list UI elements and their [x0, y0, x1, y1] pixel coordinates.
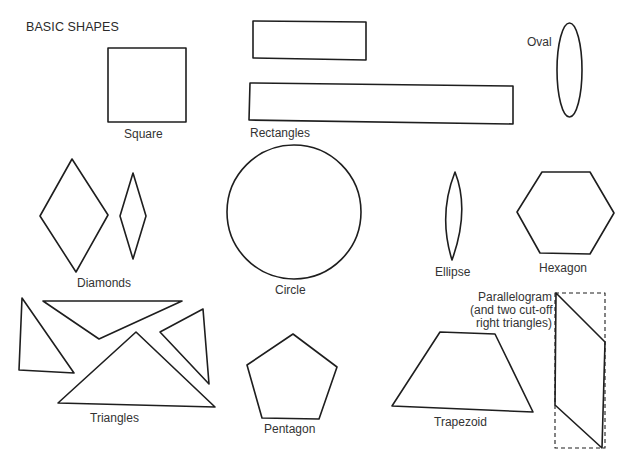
parallelogram-shape — [555, 293, 605, 448]
small-rectangle-shape — [253, 21, 366, 60]
label-square: Square — [124, 128, 163, 141]
triangle-shape-1 — [19, 298, 74, 373]
label-ellipse: Ellipse — [435, 266, 470, 279]
triangle-shape-4 — [58, 332, 215, 407]
long-rectangle-shape — [249, 83, 513, 124]
label-oval: Oval — [527, 36, 552, 49]
label-triangles: Triangles — [90, 412, 139, 425]
label-pentagon: Pentagon — [264, 423, 315, 436]
trapezoid-shape — [392, 332, 533, 412]
label-circle: Circle — [275, 284, 306, 297]
label-trapezoid: Trapezoid — [434, 416, 487, 429]
page-title: BASIC SHAPES — [26, 20, 119, 34]
label-parallelogram-line-3: right triangles) — [470, 317, 552, 330]
pentagon-shape — [247, 334, 337, 419]
label-rectangles: Rectangles — [250, 127, 310, 140]
small-diamond-shape — [120, 173, 146, 259]
circle-shape — [227, 145, 361, 279]
label-hexagon: Hexagon — [539, 262, 587, 275]
shapes-canvas — [0, 0, 632, 455]
label-parallelogram: Parallelogram (and two cut-off right tri… — [470, 291, 552, 330]
triangle-shape-3 — [160, 309, 209, 384]
hexagon-shape — [517, 172, 614, 254]
square-shape — [108, 48, 186, 122]
oval-shape — [557, 23, 582, 117]
label-diamonds: Diamonds — [77, 277, 131, 290]
ellipse-shape — [446, 172, 462, 260]
large-diamond-shape — [40, 159, 108, 272]
